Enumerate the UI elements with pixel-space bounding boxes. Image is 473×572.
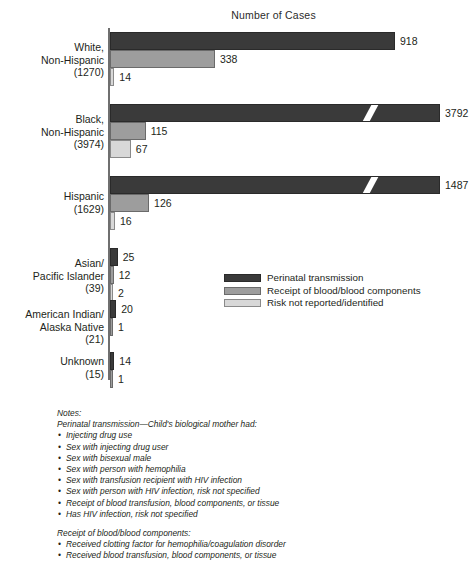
bar-0: [110, 248, 118, 266]
note-bullet: Injecting drug use: [57, 430, 447, 441]
bar-value-label: 126: [154, 197, 172, 209]
bar-1: [110, 370, 113, 388]
axis-break-slash: [359, 104, 381, 122]
note-bullet: Received blood transfusion, blood compon…: [57, 550, 447, 561]
bar-0: [110, 176, 440, 194]
bar-0: [110, 352, 114, 370]
bar-value-label: 14: [119, 355, 131, 367]
legend-item: Receipt of blood/blood components: [224, 285, 421, 298]
category-label: American Indian/ Alaska Native (21): [0, 308, 104, 346]
chart-legend: Perinatal transmissionReceipt of blood/b…: [224, 272, 421, 310]
bar-row: 14: [110, 68, 174, 86]
bar-value-label: 25: [123, 251, 135, 263]
axis-break-slash: [359, 176, 381, 194]
note-bullet: Received clotting factor for hemophilia/…: [57, 539, 447, 550]
chart-plot-area: White, Non-Hispanic (1270)91833814Black,…: [0, 0, 467, 395]
bar-value-label: 67: [136, 143, 148, 155]
notes-spacer: [57, 520, 447, 528]
category-label: Black, Non-Hispanic (3974): [0, 113, 104, 151]
bar-row: 918: [110, 32, 455, 50]
chart-notes: Notes: Perinatal transmission—Child's bi…: [57, 408, 447, 562]
note-bullet: Has HIV infection, risk not specified: [57, 509, 447, 520]
bar-2: [110, 140, 131, 158]
bar-1: [110, 122, 146, 140]
bar-0: [110, 104, 440, 122]
bar-row: 12: [110, 266, 174, 284]
notes-heading: Notes:: [57, 408, 447, 419]
legend-label: Receipt of blood/blood components: [267, 285, 421, 298]
bar-0: [110, 32, 395, 50]
bar-value-label: 1487: [445, 179, 468, 191]
bar-row: 67: [110, 140, 191, 158]
legend-label: Risk not reported/identified: [267, 297, 384, 310]
legend-swatch-icon: [224, 287, 261, 295]
bar-0: [110, 300, 116, 318]
legend-swatch-icon: [224, 274, 261, 282]
note-bullet: Receipt of blood transfusion, blood comp…: [57, 498, 447, 509]
notes-section2-title: Receipt of blood/blood components:: [57, 528, 447, 539]
bar-value-label: 1: [118, 321, 124, 333]
category-label: Hispanic (1629): [0, 190, 104, 215]
bar-row: 115: [110, 122, 206, 140]
notes-section1-title: Perinatal transmission—Child's biologica…: [57, 419, 447, 430]
note-bullet: Sex with transfusion recipient with HIV …: [57, 475, 447, 486]
bar-row: 3792: [110, 104, 473, 122]
bar-row: 16: [110, 212, 175, 230]
bar-value-label: 12: [119, 269, 131, 281]
note-bullet: Sex with person with hemophilia: [57, 464, 447, 475]
bar-row: 25: [110, 248, 178, 266]
notes-section2-list: Received clotting factor for hemophilia/…: [57, 539, 447, 561]
notes-section1-list: Injecting drug useSex with injecting dru…: [57, 430, 447, 520]
note-bullet: Sex with bisexual male: [57, 453, 447, 464]
legend-item: Perinatal transmission: [224, 272, 421, 285]
bar-value-label: 338: [220, 53, 238, 65]
bar-value-label: 115: [151, 125, 168, 137]
legend-item: Risk not reported/identified: [224, 297, 421, 310]
bar-value-label: 2: [118, 287, 124, 299]
bar-1: [110, 50, 215, 68]
bar-row: 1487: [110, 176, 473, 194]
legend-swatch-icon: [224, 299, 261, 307]
bar-value-label: 14: [119, 71, 131, 83]
note-bullet: Sex with injecting drug user: [57, 442, 447, 453]
category-label: White, Non-Hispanic (1270): [0, 41, 104, 79]
bar-row: 126: [110, 194, 209, 212]
bar-row: 1: [110, 318, 173, 336]
bar-row: 1: [110, 370, 173, 388]
bar-value-label: 1: [118, 373, 124, 385]
bar-row: 20: [110, 300, 176, 318]
bar-value-label: 16: [120, 215, 132, 227]
category-label: Unknown (15): [0, 355, 104, 380]
bar-2: [110, 212, 115, 230]
bar-row: 338: [110, 50, 275, 68]
bar-row: 14: [110, 352, 174, 370]
bar-1: [110, 266, 114, 284]
bar-value-label: 918: [400, 35, 418, 47]
category-label: Asian/ Pacific Islander (39): [0, 257, 104, 295]
bar-value-label: 3792: [445, 107, 468, 119]
note-bullet: Sex with person with HIV infection, risk…: [57, 486, 447, 497]
bar-value-label: 20: [121, 303, 133, 315]
bar-2: [110, 68, 114, 86]
bar-1: [110, 318, 113, 336]
bar-1: [110, 194, 149, 212]
legend-label: Perinatal transmission: [267, 272, 363, 285]
